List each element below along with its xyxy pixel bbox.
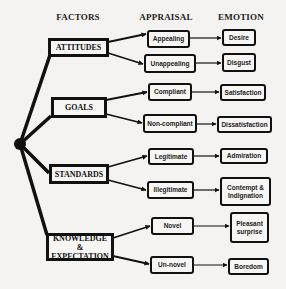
appraisal-label: Unappealing [150, 60, 189, 68]
emotion-satisfaction: Satisfaction [220, 84, 266, 101]
appraisal-novel: Novel [151, 217, 194, 235]
emotion-disgust: Disgust [222, 53, 256, 72]
appraisal-compliant: Compliant [148, 83, 192, 101]
factor-goals: GOALS [51, 97, 107, 118]
factor-label: KNOWLEDGE & EXPECTATION [49, 234, 111, 261]
emotion-label: Boredom [234, 263, 263, 271]
appraisal-unappealing: Unappealing [144, 54, 196, 73]
emotion-boredom: Boredom [228, 258, 269, 275]
appraisal-label: Legitimate [155, 153, 188, 161]
header-factors: FACTORS [56, 12, 100, 22]
appraisal-legitimate: Legitimate [148, 148, 194, 165]
factor-attitudes: ATTITUDES [48, 38, 109, 57]
emotion-pleasant-surprise: Pleasant surprise [230, 212, 269, 243]
emotion-label: Pleasant surprise [236, 220, 263, 236]
factor-knowledge-expectation: KNOWLEDGE & EXPECTATION [46, 233, 114, 261]
emotion-contempt-indignation: Contempt & Indignation [220, 177, 271, 206]
appraisal-label: Illegitimate [154, 186, 188, 194]
emotion-label: Disgust [227, 59, 251, 67]
factor-label: STANDARDS [55, 170, 103, 179]
appraisal-label: Non-compliant [147, 120, 193, 128]
emotion-admiration: Admiration [220, 148, 268, 164]
appraisal-label: Appealing [153, 35, 184, 43]
emotion-label: Dissatisfaction [221, 121, 267, 129]
appraisal-non-compliant: Non-compliant [143, 114, 197, 133]
appraisal-emotion-diagram: FACTORS APPRAISAL EMOTION ATTITUDES GOAL… [0, 0, 286, 289]
appraisal-appealing: Appealing [147, 30, 190, 48]
appraisal-un-novel: Un-novel [150, 256, 194, 274]
appraisal-illegitimate: Illegitimate [147, 181, 194, 199]
emotion-dissatisfaction: Dissatisfaction [217, 116, 272, 133]
emotion-label: Contempt & Indignation [227, 184, 264, 200]
emotion-desire: Desire [222, 29, 256, 46]
appraisal-label: Novel [164, 222, 182, 230]
header-emotion: EMOTION [218, 12, 264, 22]
emotion-label: Desire [229, 34, 249, 42]
factor-standards: STANDARDS [49, 164, 109, 184]
appraisal-label: Un-novel [158, 261, 186, 269]
factor-label: ATTITUDES [56, 43, 102, 52]
header-appraisal: APPRAISAL [139, 12, 192, 22]
emotion-label: Admiration [227, 152, 261, 160]
appraisal-label: Compliant [154, 88, 186, 96]
emotion-label: Satisfaction [225, 89, 262, 97]
factor-label: GOALS [65, 103, 93, 112]
